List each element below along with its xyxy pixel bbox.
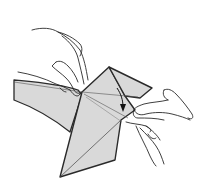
origami-illustration [0,0,211,188]
origami-diagram [0,0,211,188]
left-wing-flap [14,80,82,132]
right-hand-icon [126,89,193,166]
